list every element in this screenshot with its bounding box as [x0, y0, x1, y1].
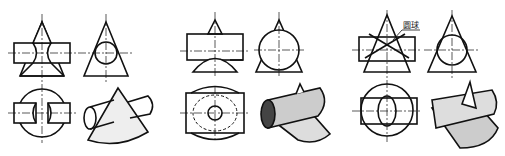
- panel-a-isometric: [84, 88, 153, 144]
- sphere-annotation: 圆球: [403, 19, 419, 30]
- panel-c-isometric: [432, 82, 498, 148]
- panel-b-isometric: [261, 84, 330, 142]
- engineering-drawing: [0, 0, 505, 156]
- panel-c-top-view: [361, 84, 417, 136]
